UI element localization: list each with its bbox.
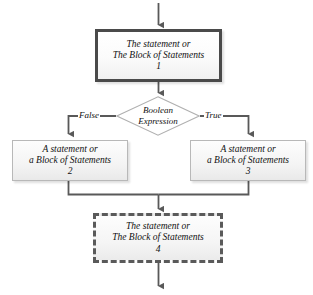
decision-boolean-expression: Boolean Expression xyxy=(116,96,200,136)
decision-line2: Expression xyxy=(138,116,178,127)
flowchart-diagram: The statement or The Block of Statements… xyxy=(0,0,313,295)
statement-block-1-line1: The statement or xyxy=(127,39,191,50)
statement-block-3: A statement or a Block of Statements 3 xyxy=(190,140,306,181)
statement-block-1-line2: The Block of Statements xyxy=(113,50,205,61)
edge-block3-merge xyxy=(159,181,249,195)
statement-block-1: The statement or The Block of Statements… xyxy=(95,29,222,82)
statement-block-4-number: 4 xyxy=(156,244,161,255)
statement-block-4-line1: The statement or xyxy=(126,221,190,232)
edge-block2-merge xyxy=(69,181,159,195)
decision-line1: Boolean xyxy=(138,105,178,116)
statement-block-3-number: 3 xyxy=(246,166,251,177)
statement-block-2-line1: A statement or xyxy=(42,144,97,155)
edge-label-true: True xyxy=(204,110,223,120)
statement-block-1-number: 1 xyxy=(156,61,161,72)
decision-text: Boolean Expression xyxy=(138,105,178,127)
edge-label-false: False xyxy=(78,110,100,120)
statement-block-3-line2: a Block of Statements xyxy=(207,155,289,166)
statement-block-2: A statement or a Block of Statements 2 xyxy=(12,140,128,181)
statement-block-2-number: 2 xyxy=(68,166,73,177)
statement-block-4: The statement or The Block of Statements… xyxy=(93,213,223,263)
statement-block-4-line2: The Block of Statements xyxy=(112,232,204,243)
statement-block-3-line1: A statement or xyxy=(220,144,275,155)
statement-block-2-line2: a Block of Statements xyxy=(29,155,111,166)
